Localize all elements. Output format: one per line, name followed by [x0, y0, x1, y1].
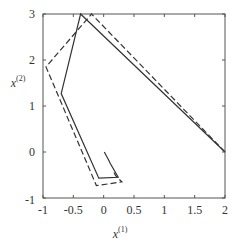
x-axis-label-sup: (1)	[118, 225, 128, 234]
x-tick-label: 0.5	[127, 203, 142, 217]
x-tick-label: 0	[101, 203, 107, 217]
series-group	[46, 14, 225, 186]
x-tick-label: 1	[161, 203, 167, 217]
x-tick-label: 2	[222, 203, 228, 217]
x-tick-label: -0.5	[64, 203, 83, 217]
y-tick-label: 0	[29, 145, 35, 159]
ticks-group: -1-0.500.511.52-10123	[25, 7, 228, 217]
y-axis-label-sup: (2)	[16, 74, 26, 83]
x-tick-label: -1	[38, 203, 48, 217]
y-tick-label: 2	[29, 53, 35, 67]
series-line-solid-trajectory	[61, 14, 225, 178]
axes-frame	[43, 14, 225, 198]
series-line-dashed-trajectory	[46, 14, 225, 186]
x-axis-label: x(1)	[112, 225, 128, 241]
y-axis-label: x(2)	[10, 74, 26, 90]
plot-frame	[43, 14, 225, 198]
trajectory-chart: -1-0.500.511.52-10123 x(1) x(2)	[0, 0, 239, 248]
y-tick-label: 3	[29, 7, 35, 21]
x-tick-label: 1.5	[187, 203, 202, 217]
y-tick-label: -1	[25, 193, 35, 207]
y-tick-label: 1	[29, 99, 35, 113]
